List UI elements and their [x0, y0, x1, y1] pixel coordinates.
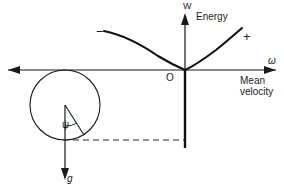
axis-label-mean-line2: velocity	[240, 86, 273, 97]
axis-symbol-omega: ω	[268, 56, 276, 67]
axis-label-mean-velocity: Meanvelocity	[240, 76, 273, 97]
axis-symbol-w: W	[183, 2, 192, 11]
energy-curve-positive-branch	[185, 28, 242, 70]
psi-angle-label: ψ	[62, 120, 69, 131]
up-arrowhead-icon	[181, 13, 189, 25]
origin-label: O	[166, 73, 174, 84]
branch-sign-positive: +	[243, 30, 251, 44]
horizontal-axis	[8, 66, 276, 74]
branch-sign-negative: −	[96, 25, 104, 39]
right-arrowhead-icon	[264, 66, 276, 74]
figure-drawing	[0, 0, 284, 195]
energy-curve-negative-branch	[104, 31, 185, 70]
axis-label-mean-line1: Mean	[240, 75, 265, 86]
axis-label-energy: Energy	[196, 12, 228, 23]
gravity-label: g	[67, 174, 73, 185]
figure-canvas: W Energy ω Meanvelocity − + O ψ g	[0, 0, 284, 195]
left-arrowhead-icon	[8, 66, 20, 74]
vertical-axis	[181, 13, 189, 70]
